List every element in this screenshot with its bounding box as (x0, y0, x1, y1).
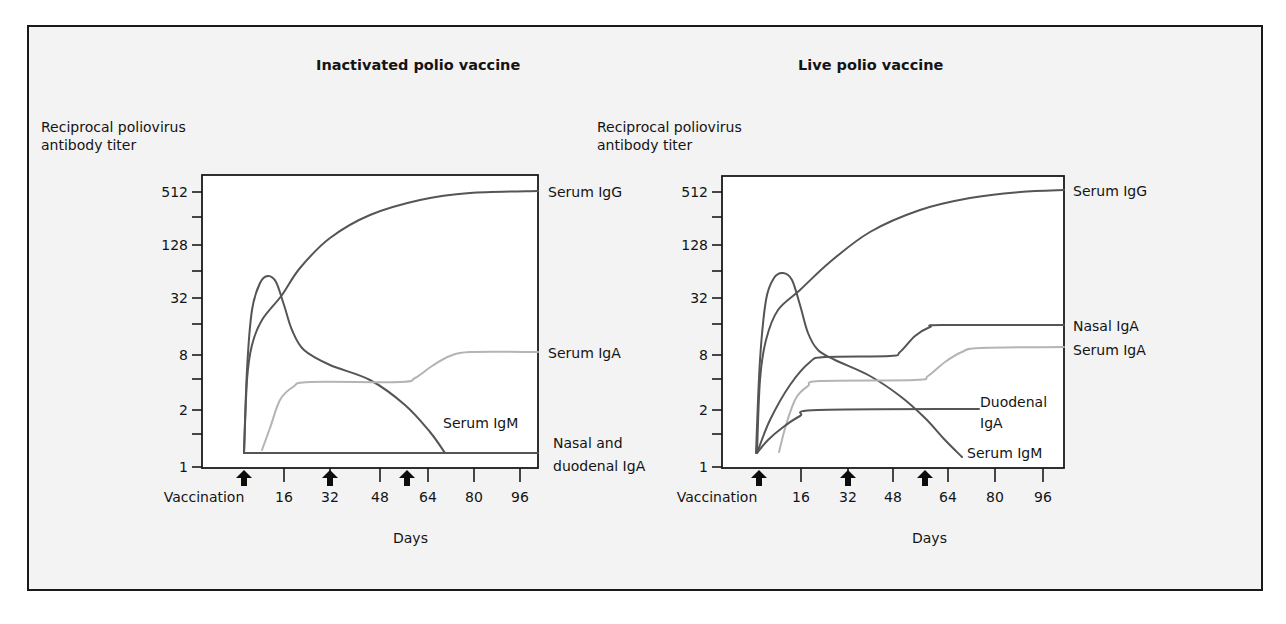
y-tick-label: 512 (681, 184, 708, 200)
curve-label: Serum IgM (967, 445, 1042, 461)
vaccination-arrow-icon (322, 470, 338, 486)
x-tick-label: 64 (939, 489, 957, 505)
y-axis-label-line1: Reciprocal poliovirus (597, 119, 742, 135)
vaccination-arrow-icon (840, 470, 856, 486)
y-tick-label: 8 (179, 347, 188, 363)
x-tick-label: Vaccination (677, 489, 758, 505)
x-tick-label: 80 (986, 489, 1004, 505)
curve-label: Serum IgA (1073, 342, 1146, 358)
y-tick-label: 2 (179, 402, 188, 418)
y-tick-label: 1 (179, 459, 188, 475)
x-tick-label: 32 (321, 489, 339, 505)
y-axis-ticks: 51212832821 (161, 184, 202, 475)
x-axis-label: Days (393, 530, 428, 546)
x-tick-label: 96 (1034, 489, 1052, 505)
x-tick-label: Vaccination (164, 489, 245, 505)
chart-title: Inactivated polio vaccine (316, 57, 520, 73)
y-tick-label: 128 (681, 237, 708, 253)
x-tick-label: 32 (839, 489, 857, 505)
curve-label: duodenal IgA (553, 458, 646, 474)
curve-label: Nasal and (553, 435, 623, 451)
x-tick-label: 96 (511, 489, 529, 505)
x-tick-label: 16 (275, 489, 293, 505)
curve-label: Duodenal (980, 394, 1047, 410)
vaccination-arrow-icon (399, 470, 415, 486)
figure-canvas: Inactivated polio vaccine Reciprocal pol… (0, 0, 1286, 624)
y-axis-ticks: 51212832821 (681, 184, 722, 475)
curve-label: Serum IgG (548, 184, 622, 200)
curve-label: Serum IgA (548, 345, 621, 361)
y-axis-label-line2: antibody titer (41, 137, 136, 153)
curve-label: IgA (980, 415, 1003, 431)
x-tick-label: 48 (884, 489, 902, 505)
x-tick-label: 64 (419, 489, 437, 505)
chart-inactivated-vaccine: Inactivated polio vaccine Reciprocal pol… (41, 57, 646, 546)
y-tick-label: 128 (161, 237, 188, 253)
curve-label: Nasal IgA (1073, 318, 1139, 334)
vaccination-arrows (236, 470, 415, 486)
chart-title: Live polio vaccine (798, 57, 944, 73)
y-tick-label: 512 (161, 184, 188, 200)
y-tick-label: 2 (699, 402, 708, 418)
y-tick-label: 32 (170, 290, 188, 306)
vaccination-arrow-icon (917, 470, 933, 486)
vaccination-arrow-icon (751, 470, 767, 486)
x-tick-label: 48 (371, 489, 389, 505)
chart-live-vaccine: Live polio vaccine Reciprocal poliovirus… (597, 57, 1147, 546)
y-tick-label: 1 (699, 459, 708, 475)
y-tick-label: 32 (690, 290, 708, 306)
y-axis-label-line2: antibody titer (597, 137, 692, 153)
y-axis-label-line1: Reciprocal poliovirus (41, 119, 186, 135)
curve-label: Serum IgG (1073, 183, 1147, 199)
x-tick-label: 16 (792, 489, 810, 505)
y-tick-label: 8 (699, 347, 708, 363)
vaccination-arrows (751, 470, 933, 486)
x-tick-label: 80 (465, 489, 483, 505)
x-axis-ticks: Vaccination163248648096 (677, 468, 1052, 505)
curve-label: Serum IgM (443, 415, 518, 431)
x-axis-label: Days (912, 530, 947, 546)
x-axis-ticks: Vaccination163248648096 (164, 468, 529, 505)
vaccination-arrow-icon (236, 470, 252, 486)
